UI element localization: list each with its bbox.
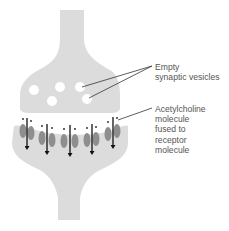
receptor — [114, 124, 121, 138]
label-empty-synaptic-vesicles: Empty synaptic vesicles — [155, 62, 219, 82]
receptor — [61, 134, 68, 148]
label-line: molecule — [155, 114, 206, 124]
receptor — [84, 133, 91, 147]
receptor — [28, 126, 35, 140]
receptor — [20, 124, 27, 138]
label-line: fused to — [155, 124, 206, 134]
leader-line-acetylcholine — [118, 108, 152, 120]
label-line: Empty — [155, 62, 219, 72]
vesicle — [82, 94, 92, 104]
vesicle — [55, 82, 65, 92]
receptor — [105, 127, 112, 141]
label-line: synaptic vesicles — [155, 72, 219, 82]
presynaptic-terminal — [20, 10, 120, 113]
receptor — [39, 131, 46, 145]
receptor — [72, 134, 79, 148]
vesicle — [47, 96, 57, 106]
receptor — [93, 132, 100, 146]
vesicle — [75, 82, 85, 92]
label-line: Acetylcholine — [155, 104, 206, 114]
vesicle — [29, 85, 39, 95]
label-acetylcholine-receptor: Acetylcholine molecule fused to receptor… — [155, 104, 206, 155]
label-line: molecule — [155, 145, 206, 155]
receptor — [49, 133, 56, 147]
label-line: receptor — [155, 135, 206, 145]
